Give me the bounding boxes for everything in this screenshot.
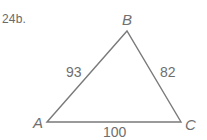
triangle-diagram: B A C 93 82 100 — [0, 0, 207, 140]
side-label-BC: 82 — [160, 64, 176, 80]
side-label-AB: 93 — [66, 64, 82, 80]
vertex-label-B: B — [122, 11, 132, 28]
side-label-AC: 100 — [103, 124, 127, 140]
vertex-label-C: C — [185, 116, 196, 133]
vertex-label-A: A — [32, 114, 43, 131]
